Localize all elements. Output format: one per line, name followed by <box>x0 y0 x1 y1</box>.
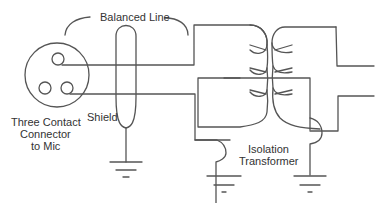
ground-icon <box>207 176 241 192</box>
shield-label: Shield <box>87 111 118 123</box>
ground-icon <box>294 176 326 192</box>
balanced-line-label: Balanced Line <box>100 11 170 23</box>
output-wire-bottom <box>310 96 374 131</box>
transformer-label-line2: Transformer <box>239 155 299 167</box>
connector-label-line2: Connector <box>20 128 71 140</box>
balanced-line-diagram: Balanced Line Three Contact Connector to… <box>0 0 386 203</box>
secondary-ground-lead <box>310 118 322 175</box>
output-wire-top <box>336 27 374 66</box>
signal-wire-hot <box>62 25 267 65</box>
three-contact-connector <box>25 43 89 107</box>
transformer-label-line1: Isolation <box>248 143 289 155</box>
connector-label-line3: to Mic <box>31 140 61 152</box>
ground-icon <box>110 162 142 177</box>
transformer-primary-coil <box>198 25 268 127</box>
connector-label-line1: Three Contact <box>11 116 81 128</box>
